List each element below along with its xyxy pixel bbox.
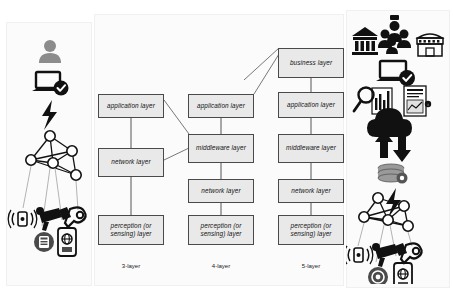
box-label: application layer — [197, 102, 245, 110]
wireless-sensor-icon — [8, 210, 37, 228]
box-3layer-perception[interactable]: perception (or sensing) layer — [98, 215, 164, 245]
caption-text: 3-layer — [122, 263, 140, 269]
lightning-bolt-icon — [42, 100, 57, 130]
box-label: network layer — [111, 158, 150, 166]
box-label: network layer — [201, 187, 240, 195]
smartphone-globe-icon — [58, 228, 76, 256]
coin-chip-icon — [34, 232, 54, 252]
box-5layer-business[interactable]: business layer — [278, 48, 344, 78]
box-label: perception (or sensing) layer — [283, 222, 339, 238]
box-label: application layer — [287, 101, 335, 109]
box-3layer-application[interactable]: application layer — [98, 94, 164, 118]
box-4layer-perception[interactable]: perception (or sensing) layer — [188, 215, 254, 245]
box-4layer-network[interactable]: network layer — [188, 179, 254, 203]
caption-text: 5-layer — [302, 263, 320, 269]
box-label: business layer — [290, 59, 332, 67]
caption-4layer: 4-layer — [188, 263, 254, 269]
database-gear-icon — [378, 164, 408, 184]
caption-3layer: 3-layer — [98, 263, 164, 269]
box-5layer-perception[interactable]: perception (or sensing) layer — [278, 215, 344, 245]
box-5layer-middleware[interactable]: middleware layer — [278, 134, 344, 163]
svg-text:i: i — [428, 102, 429, 107]
box-label: middleware layer — [196, 144, 246, 152]
laptop-check-icon — [32, 72, 69, 96]
report-document-icon: i — [404, 86, 431, 116]
left-illustration — [6, 30, 94, 284]
caption-5layer: 5-layer — [278, 263, 344, 269]
box-5layer-application[interactable]: application layer — [278, 92, 344, 118]
box-label: perception (or sensing) layer — [103, 222, 159, 238]
box-label: perception (or sensing) layer — [193, 222, 249, 238]
caption-text: 4-layer — [212, 263, 230, 269]
smartphone-globe-icon — [394, 263, 412, 284]
laptop-check-icon — [376, 61, 415, 86]
box-5layer-network[interactable]: network layer — [278, 179, 344, 203]
box-label: application layer — [107, 102, 155, 110]
diagram-canvas: application layer network layer percepti… — [0, 0, 453, 292]
box-label: middleware layer — [286, 144, 336, 152]
right-illustration: i — [346, 12, 450, 284]
box-4layer-middleware[interactable]: middleware layer — [188, 134, 254, 163]
user-avatar-icon — [39, 40, 61, 63]
people-group-icon — [378, 15, 411, 54]
box-4layer-application[interactable]: application layer — [188, 94, 254, 118]
box-label: network layer — [291, 187, 330, 195]
storefront-icon — [417, 34, 443, 56]
box-3layer-network[interactable]: network layer — [98, 148, 164, 177]
bank-building-icon — [352, 27, 378, 55]
coin-chip-icon — [368, 267, 388, 284]
wireless-sensor-icon — [346, 246, 373, 264]
